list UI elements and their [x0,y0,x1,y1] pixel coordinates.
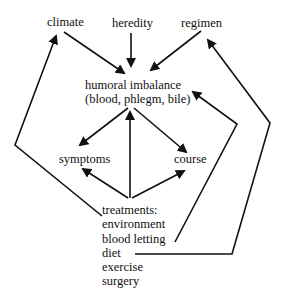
node-regimen: regimen [181,16,222,30]
treatment-diet: diet [102,246,166,260]
arrow-humoral-to-symptoms [80,108,128,145]
node-treatments: treatments: environment blood letting di… [102,203,166,289]
humoral-title: humoral imbalance [85,78,191,92]
treatment-exercise: exercise [102,260,166,274]
arrow-regimen-to-humoral [151,31,201,70]
arrow-environment-to-climate [15,36,102,216]
arrow-treatments-to-symptoms [83,169,128,198]
treatment-blood-letting: blood letting [102,232,166,246]
node-climate: climate [47,15,84,29]
node-humoral-imbalance: humoral imbalance (blood, phlegm, bile) [85,78,191,107]
arrow-bloodletting-to-humoral [175,92,237,242]
arrow-humoral-to-course [134,108,186,152]
arrow-treatments-to-course [132,171,184,198]
treatment-surgery: surgery [102,274,166,288]
humoral-theory-diagram: climate heredity regimen humoral imbalan… [0,0,282,299]
node-symptoms: symptoms [59,152,110,166]
node-course: course [174,152,207,166]
humoral-subtitle: (blood, phlegm, bile) [85,92,191,106]
arrow-climate-to-humoral [64,32,124,73]
node-heredity: heredity [112,16,153,30]
treatments-header: treatments: [102,203,166,217]
treatment-environment: environment [102,217,166,231]
